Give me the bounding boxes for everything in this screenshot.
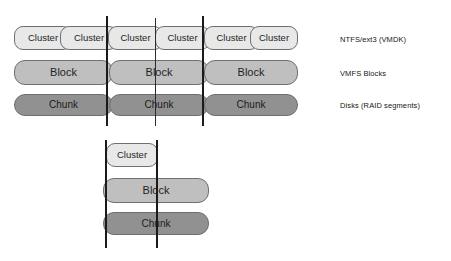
top-boundary-line-left [106, 16, 108, 126]
cluster-label: Cluster [120, 33, 150, 43]
top-boundary-line-right [202, 16, 204, 126]
top-boundary-line-middle-tick [155, 18, 156, 126]
top-cluster-cell-6: Cluster [250, 26, 298, 50]
cluster-label: Cluster [74, 33, 104, 43]
cluster-label: Cluster [167, 33, 197, 43]
top-chunk-cell-3: Chunk [204, 94, 298, 116]
top-chunk-cell-1: Chunk [14, 94, 113, 116]
cluster-label: Cluster [216, 33, 246, 43]
legend-label-ntfs: NTFS/ext3 (VMDK) [340, 35, 406, 44]
bottom-boundary-line-right [156, 140, 158, 248]
cluster-label: Cluster [259, 33, 289, 43]
bottom-boundary-line-left [105, 140, 107, 248]
top-block-cell-2: Block [109, 60, 209, 85]
block-label: Block [50, 67, 77, 78]
legend-label-vmfs: VMFS Blocks [340, 69, 386, 78]
top-block-cell-3: Block [204, 60, 298, 85]
bottom-cluster-cell: Cluster [106, 143, 158, 167]
top-block-cell-1: Block [14, 60, 113, 85]
block-label: Block [146, 67, 173, 78]
top-chunk-cell-2: Chunk [109, 94, 209, 116]
legend-label-disks: Disks (RAID segments) [340, 101, 420, 110]
chunk-label: Chunk [237, 100, 266, 110]
block-label: Block [238, 67, 265, 78]
cluster-label: Cluster [117, 150, 147, 160]
chunk-label: Chunk [49, 100, 78, 110]
storage-alignment-diagram: Cluster Cluster Cluster Cluster Cluster … [0, 0, 451, 261]
cluster-label: Cluster [28, 33, 58, 43]
chunk-label: Chunk [145, 100, 174, 110]
